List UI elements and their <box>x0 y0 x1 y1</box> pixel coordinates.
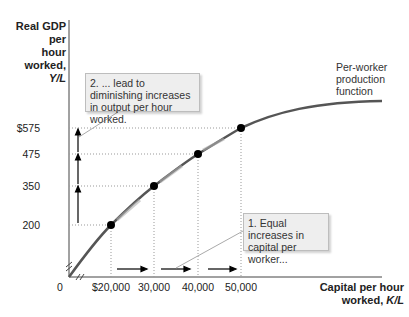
y-axis-variable: Y/L <box>49 72 66 84</box>
curve-label-line1: Per-worker <box>336 61 387 73</box>
data-point-40000 <box>194 150 202 158</box>
y-axis-title: Real GDP per hour worked, Y/L <box>2 20 66 85</box>
annotation-diminishing-output: 2. ... lead to diminishing increases in … <box>85 73 200 112</box>
y-tick-575: $575 <box>0 122 40 134</box>
output-increase-arrows <box>76 129 81 223</box>
data-point-50000 <box>237 124 245 132</box>
y-tick-350: 350 <box>0 180 40 192</box>
curve-label-line3: function <box>336 85 387 97</box>
x-tick-50000: 50,000 <box>213 281 269 293</box>
y-tick-475: 475 <box>0 148 40 160</box>
x-axis-title-line1: Capital per hour <box>300 281 404 294</box>
x-axis-variable: K/L <box>386 294 404 306</box>
origin-label: 0 <box>57 281 63 293</box>
annotation-equal-capital-increases: 1. Equal increases in capital per worker… <box>243 213 329 251</box>
x-axis-title: Capital per hour worked, K/L <box>300 281 404 307</box>
curve-label-line2: production <box>336 73 387 85</box>
y-tick-200: 200 <box>0 219 40 231</box>
y-axis-title-line1: Real GDP per <box>2 20 66 46</box>
curve-label: Per-worker production function <box>336 61 387 97</box>
curve-highlight-arrows <box>117 139 224 220</box>
data-point-20000 <box>107 221 115 229</box>
production-function-curve <box>69 101 382 277</box>
y-axis-title-line2: hour worked, <box>2 46 66 72</box>
vertical-guides <box>111 128 241 277</box>
x-axis-title-line2: worked, <box>342 294 387 306</box>
note1-leader <box>176 231 243 268</box>
data-point-30000 <box>150 182 158 190</box>
